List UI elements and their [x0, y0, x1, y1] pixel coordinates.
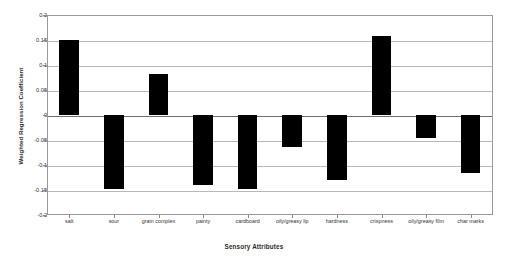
x-axis-tick-mark [426, 215, 427, 218]
x-axis-title: Sensory Attributes [0, 243, 508, 250]
y-axis-tick-label: -0.1 [13, 162, 47, 168]
x-axis-tick-mark [114, 215, 115, 218]
x-axis-tick-mark [292, 215, 293, 218]
x-axis-tick-label: painty [181, 218, 226, 225]
y-axis-tick-label: 0.05 [13, 87, 47, 93]
y-axis-tick-label: 0 [13, 112, 47, 118]
y-axis-tick-label: 0.2 [13, 12, 47, 18]
y-axis-tick-label: -0.05 [13, 137, 47, 143]
bar [461, 115, 481, 173]
x-axis-tick-labels: saltsourgrain complexpaintycardboardoily… [47, 218, 493, 244]
x-axis-tick-mark [337, 215, 338, 218]
bar [238, 115, 258, 189]
x-axis-tick-label: grain complex [136, 218, 181, 225]
x-axis-tick-mark [471, 215, 472, 218]
bar [149, 74, 169, 116]
x-axis-tick-mark [203, 215, 204, 218]
bar [327, 115, 347, 180]
bar [282, 115, 302, 147]
x-axis-tick-label: oily/greasy film [404, 218, 449, 225]
x-axis-tick-label: cardboard [225, 218, 270, 225]
bar [104, 115, 124, 189]
y-axis: 0.20.150.10.050-0.05-0.1-0.15-0.2 [0, 0, 47, 261]
x-axis-tick-label: oily/greasy lip [270, 218, 315, 225]
x-axis-tick-label: crispness [359, 218, 404, 225]
bar [59, 40, 79, 115]
bar [372, 36, 392, 115]
y-axis-tick-label: 0.15 [13, 37, 47, 43]
x-axis-tick-label: sour [92, 218, 137, 225]
bar-series [47, 15, 493, 215]
y-axis-tick-label: -0.15 [13, 187, 47, 193]
x-axis-tick-label: char marks [448, 218, 493, 225]
x-axis-tick-label: hardness [315, 218, 360, 225]
y-axis-tick-label: -0.2 [13, 212, 47, 218]
bar [416, 115, 436, 138]
x-axis-tick-mark [159, 215, 160, 218]
bar [193, 115, 213, 185]
x-axis-tick-mark [248, 215, 249, 218]
x-axis-tick-mark [382, 215, 383, 218]
chart-figure: Weighted Regression Coefficient 0.20.150… [0, 0, 508, 261]
x-axis-tick-label: salt [47, 218, 92, 225]
x-axis-tick-mark [69, 215, 70, 218]
y-axis-tick-label: 0.1 [13, 62, 47, 68]
